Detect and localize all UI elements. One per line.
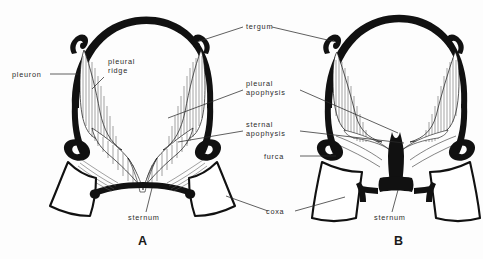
coxa-right-a	[189, 162, 235, 216]
furca-base-b	[379, 177, 414, 193]
leader-sternum-b	[392, 190, 398, 212]
furcal-arm-left-b	[344, 130, 390, 150]
panel-b-drawing	[312, 15, 480, 221]
sternal-knob-left-a	[90, 189, 100, 199]
label-coxa: coxa	[266, 207, 284, 216]
furca-b	[388, 132, 404, 184]
pleural-ridge-right-b	[410, 52, 459, 142]
pleural-ridge-left-b	[333, 52, 382, 142]
pleural-coxal-process-right-a	[195, 139, 221, 161]
anatomy-illustration	[0, 0, 483, 259]
leader-pleural-apophysis-a	[168, 90, 243, 118]
panel-a-drawing	[50, 17, 235, 216]
coxa-left-a	[50, 162, 96, 216]
figure-canvas: pleuron pleural ridge tergum pleural apo…	[0, 0, 483, 259]
label-sternum-b: sternum	[374, 213, 406, 222]
label-sternal-apophysis: sternal apophysis	[246, 120, 286, 138]
label-pleural-ridge: pleural ridge	[108, 57, 135, 75]
pleural-coxal-process-right-b	[449, 139, 475, 161]
label-pleuron: pleuron	[12, 70, 42, 79]
coxa-left-b	[312, 162, 362, 221]
label-tergum: tergum	[246, 22, 273, 31]
pleural-coxal-process-left-a	[64, 139, 90, 161]
furcal-arm-right-b	[402, 130, 448, 150]
coxa-right-b	[430, 162, 480, 221]
leader-sternum-a	[146, 188, 152, 212]
leader-tergum-to-b	[272, 27, 336, 42]
caption-panel-b: B	[394, 234, 404, 248]
label-sternum-a: sternum	[128, 213, 160, 222]
label-furca: furca	[264, 152, 284, 161]
label-pleural-apophysis: pleural apophysis	[246, 79, 286, 97]
sternal-knob-right-a	[185, 189, 195, 199]
leader-tergum-to-a	[197, 27, 243, 42]
pleural-coxal-process-left-b	[317, 139, 343, 161]
caption-panel-a: A	[138, 234, 148, 248]
